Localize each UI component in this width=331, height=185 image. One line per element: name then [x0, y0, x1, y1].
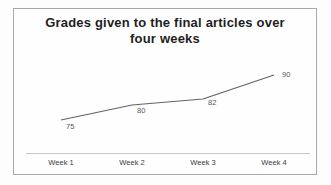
x-axis-label-week4: Week 4	[261, 158, 286, 167]
x-axis-label-week2: Week 2	[119, 158, 144, 167]
data-label-week1: 75	[66, 122, 74, 131]
chart-frame: Grades given to the final articles over …	[13, 8, 317, 175]
data-label-week3: 82	[208, 98, 216, 107]
x-axis-label-week1: Week 1	[48, 158, 73, 167]
line-chart-plot	[14, 9, 316, 174]
data-label-week4: 90	[282, 70, 290, 79]
grades-line-series	[61, 75, 274, 120]
data-label-week2: 80	[137, 106, 145, 115]
x-axis-label-week3: Week 3	[190, 158, 215, 167]
x-axis-line	[26, 153, 310, 154]
